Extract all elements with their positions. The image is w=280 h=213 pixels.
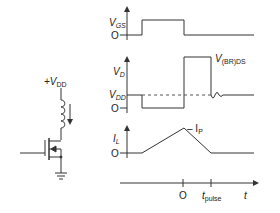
vd-trace: [127, 57, 211, 108]
vd-plot: [120, 57, 254, 113]
vdd-label: VDD: [109, 89, 126, 101]
vgs-label: VGS: [109, 17, 126, 29]
peak-current-label: – IP: [187, 123, 203, 135]
vgs-zero-label: O: [111, 30, 119, 41]
time-axis: [120, 179, 256, 187]
time-axis-label: t: [244, 190, 248, 201]
vd-ringing: [211, 93, 254, 99]
vgs-plot: [120, 9, 254, 40]
supply-label: +VDD: [44, 76, 67, 88]
avalanche-diagram: +VDD VGS O VD VDD O V(BR)DS IL O – IP O …: [0, 0, 280, 213]
inductor-icon: [61, 100, 65, 128]
vd-label: VD: [113, 66, 125, 78]
il-zero-label: O: [111, 148, 119, 159]
tpulse-label: tpulse: [202, 190, 222, 203]
vgs-trace: [127, 20, 254, 35]
vd-zero-label: O: [111, 103, 119, 114]
breakdown-label: V(BR)DS: [215, 53, 246, 66]
body-arrow-icon: [51, 146, 56, 152]
circuit: [20, 88, 70, 179]
il-label: IL: [113, 133, 120, 145]
time-origin-label: O: [179, 190, 187, 201]
